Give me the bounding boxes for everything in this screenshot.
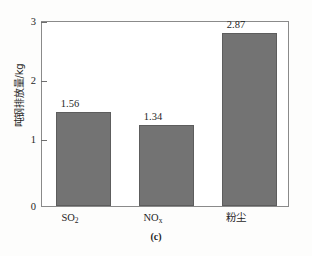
bar-value-so2: 1.56 [35,99,105,110]
y-tick-mark-1 [41,140,47,141]
y-tick-mark-3 [41,22,47,23]
figure-caption: (c) [0,231,312,242]
y-tick-label-3: 3 [20,17,36,28]
category-label-nox: NOx [118,213,188,224]
category-label-so2-base: SO [61,212,74,223]
category-label-dust: 粉尘 [201,212,271,224]
category-label-nox-base: NO [144,212,159,223]
bar-so2 [56,112,111,206]
category-label-so2-sub: 2 [75,216,79,225]
category-label-nox-sub: x [159,216,163,225]
y-tick-label-0: 0 [20,202,36,213]
category-label-dust-base: 粉尘 [226,211,246,223]
figure-container: 吨钢排放量/kg 3 2 1 0 1.56 1.34 2.87 SO2 NOx … [0,0,312,256]
category-label-so2: SO2 [35,213,105,224]
bar-nox [139,125,194,206]
y-tick-label-1: 1 [20,135,36,146]
bar-value-dust: 2.87 [201,20,271,31]
y-axis-title: 吨钢排放量/kg [11,41,26,151]
y-tick-mark-2 [41,81,47,82]
bar-value-nox: 1.34 [118,112,188,123]
bar-dust [222,33,277,206]
y-tick-label-2: 2 [20,76,36,87]
